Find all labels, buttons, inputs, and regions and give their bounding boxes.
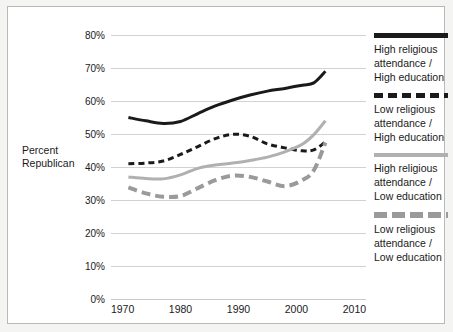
legend-label: attendance / (374, 236, 450, 250)
y-tick-label: 0% (91, 294, 105, 305)
y-tick-label: 80% (85, 30, 105, 41)
y-axis-title-line1: Percent (22, 144, 94, 157)
legend-label: attendance / (374, 56, 450, 70)
series-line-1 (128, 71, 325, 123)
legend-entry-4: Low religiousattendance /Low education (374, 212, 450, 264)
y-tick-label: 40% (85, 162, 105, 173)
x-tick-label: 1980 (169, 303, 192, 315)
legend-entry-2: Low religiousattendance /High education (374, 93, 450, 144)
chart-figure: Percent Republican 0%10%20%30%40%50%60%7… (7, 6, 445, 324)
gridline (111, 299, 366, 300)
y-axis-title: Percent Republican (22, 144, 94, 170)
x-tick-label: 1990 (227, 303, 250, 315)
legend-label: High religious (374, 42, 450, 56)
y-tick-label: 70% (85, 63, 105, 74)
x-tick-label: 2010 (343, 303, 366, 315)
solid-gray-line-icon (374, 153, 448, 157)
legend-entry-3: High religiousattendance /Low education (374, 153, 450, 203)
legend-label: Low education (374, 189, 450, 203)
y-axis-title-line2: Republican (22, 157, 94, 170)
legend-label: High religious (374, 161, 450, 175)
legend-label: Low education (374, 250, 450, 264)
y-tick-label: 30% (85, 195, 105, 206)
legend-label: attendance / (374, 175, 450, 189)
y-tick-label: 10% (85, 261, 105, 272)
legend-label: Low religious (374, 222, 450, 236)
legend-label: High education (374, 70, 450, 84)
y-tick-label: 20% (85, 228, 105, 239)
legend-label: attendance / (374, 116, 450, 130)
y-tick-label: 50% (85, 129, 105, 140)
series-lines (111, 35, 366, 299)
y-tick-label: 60% (85, 96, 105, 107)
solid-black-line-icon (374, 33, 448, 38)
legend-entry-1: High religiousattendance /High education (374, 33, 450, 84)
legend-label: High education (374, 130, 450, 144)
chart-legend: High religiousattendance /High education… (374, 33, 450, 273)
x-tick-label: 1970 (111, 303, 134, 315)
dashed-black-line-icon (374, 93, 448, 98)
x-tick-label: 2000 (285, 303, 308, 315)
dashed-gray-line-icon (374, 212, 448, 218)
plot-area: 0%10%20%30%40%50%60%70%80% 1970198019902… (111, 35, 366, 299)
legend-label: Low religious (374, 102, 450, 116)
